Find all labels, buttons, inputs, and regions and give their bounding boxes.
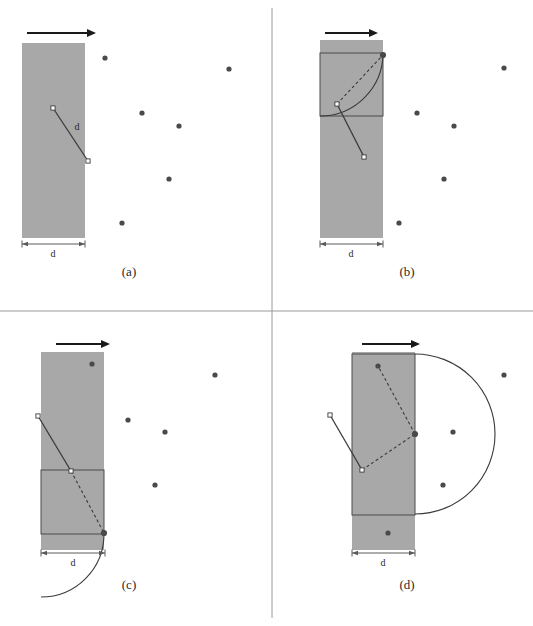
panel-a-dimension-arrow-right — [79, 242, 85, 246]
panel-a-motion-arrow-head — [87, 29, 96, 37]
panel-a-strip — [22, 43, 85, 238]
panel-a-dimension-arrow-left — [22, 242, 28, 246]
panel-a-point-dot — [226, 66, 231, 71]
four-panel-geometry-figure: dd(a)d(b)d(c)d(d) — [0, 0, 533, 626]
panel-d-dimension-label: d — [381, 557, 386, 568]
panel-d-point-dot — [501, 372, 506, 377]
panel-b-point-dot — [441, 176, 446, 181]
panel-a-point-dot — [176, 123, 181, 128]
panel-a-open-marker — [51, 106, 55, 110]
panel-d-point-dot — [375, 363, 380, 368]
panel-c-point-dot — [89, 361, 94, 366]
panel-c-strip — [41, 352, 104, 550]
panel-d-circular-arc — [415, 354, 495, 514]
panel-b-point-dot — [501, 65, 506, 70]
panel-a-open-marker — [86, 159, 90, 163]
panel-c-filled-endpoint — [101, 530, 107, 536]
panel-d-strip — [352, 352, 415, 550]
panel-b-filled-endpoint — [380, 52, 386, 58]
panel-c-point-dot — [125, 417, 130, 422]
panel-b-open-marker — [362, 155, 366, 159]
panel-d-point-dot — [385, 530, 390, 535]
panel-b-strip — [320, 40, 383, 238]
panel-b-motion-arrow-head — [369, 29, 378, 37]
panel-b-dimension-arrow-left — [320, 242, 326, 246]
panel-a-point-dot — [139, 110, 144, 115]
panel-c-caption: (c) — [122, 577, 136, 592]
panel-a-point-dot — [166, 176, 171, 181]
panel-b-point-dot — [396, 220, 401, 225]
panel-a-dimension-label: d — [51, 248, 56, 259]
panel-a-point-dot — [119, 220, 124, 225]
panel-c-point-dot — [162, 429, 167, 434]
panel-d-dimension-arrow-right — [409, 551, 415, 555]
panel-b-dimension-arrow-right — [377, 242, 383, 246]
panel-d-dimension-arrow-left — [352, 551, 358, 555]
panel-b-caption: (b) — [399, 264, 414, 279]
panel-b-point-dot — [414, 110, 419, 115]
panel-b-dimension-label: d — [349, 248, 354, 259]
panel-c-open-marker — [69, 469, 73, 473]
panel-b-point-dot — [451, 123, 456, 128]
panel-b-open-marker — [335, 102, 339, 106]
panel-c-motion-arrow-head — [101, 340, 110, 348]
panel-a-segment-length-label: d — [75, 121, 80, 132]
panel-d-open-marker — [360, 468, 364, 472]
panel-d-motion-arrow-head — [411, 340, 420, 348]
panel-c-point-dot — [152, 482, 157, 487]
panel-d-filled-endpoint — [412, 431, 418, 437]
panel-a-caption: (a) — [122, 264, 136, 279]
panel-c-open-marker — [36, 414, 40, 418]
panel-c-point-dot — [212, 372, 217, 377]
figure-container: dd(a)d(b)d(c)d(d) — [0, 0, 533, 626]
panel-c-dimension-label: d — [71, 557, 76, 568]
panel-d-caption: (d) — [399, 577, 414, 592]
panel-d-point-dot — [450, 429, 455, 434]
panel-c-dimension-arrow-left — [41, 551, 47, 555]
panel-a-point-dot — [102, 55, 107, 60]
panel-d-point-dot — [440, 482, 445, 487]
panel-d-open-marker — [328, 413, 332, 417]
